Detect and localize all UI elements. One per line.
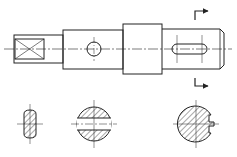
section-marks — [195, 11, 208, 86]
section-square — [17, 104, 43, 144]
section-arrow-top — [195, 11, 208, 20]
sections — [17, 100, 219, 148]
section-keyway — [173, 100, 219, 148]
section-cross-hole — [71, 100, 117, 148]
technical-drawing — [0, 0, 237, 157]
main-view — [4, 24, 232, 74]
middle-shaft — [63, 30, 123, 69]
section-arrow-bottom — [195, 78, 208, 86]
